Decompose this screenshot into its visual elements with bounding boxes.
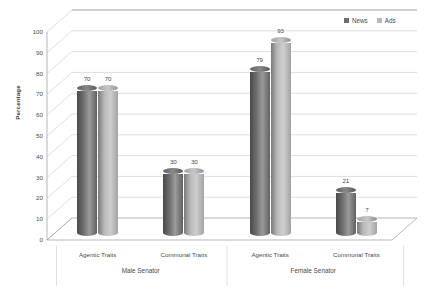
category-label: Communal Traits [149,252,219,258]
category-label: Communal Traits [321,252,391,258]
y-tick-label: 100 [21,29,43,35]
y-tick-label: 10 [21,216,43,222]
category-label: Agentic Traits [63,252,133,258]
bar-body [271,43,291,236]
legend-swatch-news [344,18,349,23]
bar-body [77,91,97,237]
y-tick-label: 90 [21,50,43,56]
bar-top-ellipse [336,187,356,193]
bar-value-label: 70 [88,76,128,82]
bar-ads-3 [357,216,377,237]
bar-top-ellipse [77,85,97,91]
bar-body [184,174,204,236]
bar-body [98,91,118,237]
y-tick-label: 30 [21,175,43,181]
bar-value-label: 7 [347,207,387,213]
bar-news-0 [77,85,97,237]
y-axis-title: Percentage [14,73,21,133]
bar-body [250,72,270,236]
y-tick-label: 50 [21,133,43,139]
bar-ads-0 [98,85,118,237]
bar-top-ellipse [250,66,270,72]
bar-ads-1 [184,168,204,236]
legend-entry-news: News [344,17,368,24]
bar-value-label: 21 [326,178,366,184]
legend-swatch-ads [377,18,382,23]
bar-value-label: 93 [261,28,301,34]
legend-label-ads: Ads [385,17,396,24]
y-tick-label: 0 [21,237,43,243]
bar-body [336,193,356,237]
bar-ads-2 [271,37,291,236]
chart-legend: News Ads [344,17,396,24]
y-tick-label: 60 [21,112,43,118]
bar-value-label: 79 [240,57,280,63]
y-tick-label: 20 [21,195,43,201]
category-label: Agentic Traits [235,252,305,258]
bar-body [163,174,183,236]
bar-news-1 [163,168,183,236]
bar-value-label: 30 [174,159,214,165]
group-label: Male Senator [81,268,201,274]
bar-top-ellipse [357,216,377,222]
y-tick-label: 40 [21,154,43,160]
bar-news-2 [250,66,270,236]
legend-label-news: News [352,17,368,24]
y-tick-label: 80 [21,71,43,77]
bar-top-ellipse [98,85,118,91]
group-label: Female Senator [253,268,373,274]
legend-entry-ads: Ads [377,17,396,24]
y-tick-label: 70 [21,91,43,97]
bar-body [357,222,377,237]
plot-frame [0,0,440,294]
bar-top-ellipse [271,37,291,43]
chart-container: Percentage 1009080706050403020100 707030… [0,0,440,294]
